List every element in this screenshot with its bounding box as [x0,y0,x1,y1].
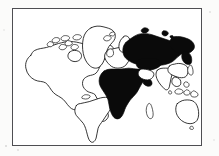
map-frame-border [12,8,202,146]
region-sri-lanka [169,91,172,94]
region-arctic-dot-filled [170,36,173,39]
region-philippines [184,82,189,87]
region-tasmania [190,126,194,129]
region-novaya-zemlya-filled [162,31,168,36]
region-arctic-island-5 [71,44,79,49]
region-arctic-island-3 [73,35,82,40]
region-british-isles [107,49,114,57]
region-arctic-island-4 [59,44,67,49]
world-map-figure [0,0,219,156]
region-central-asia-filled [136,58,161,70]
region-australia [176,100,199,124]
region-indonesia-1 [175,89,183,94]
region-arctic-island-7 [65,41,72,46]
region-japan [188,65,193,75]
region-kamchatka-filled [182,51,192,64]
region-svalbard-filled [141,28,149,33]
region-madagascar [146,103,153,118]
region-indonesia-2 [184,90,190,95]
region-southeast-asia [172,77,181,87]
world-map-svg [13,9,201,145]
region-arctic-island-2 [61,36,70,41]
region-south-america [75,97,113,142]
region-new-guinea [191,91,198,97]
region-iceland [104,36,112,41]
region-hudson-bay [68,50,82,61]
region-arctic-island-6 [47,42,53,47]
region-arctic-island-1 [52,38,60,43]
